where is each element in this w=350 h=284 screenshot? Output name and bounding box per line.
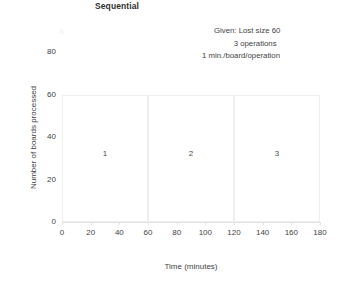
x-axis-tick-mark xyxy=(119,222,120,225)
x-axis-tick-label: 0 xyxy=(47,228,77,237)
stray-mark-icon: Λ xyxy=(59,29,63,35)
x-axis-tick-mark xyxy=(62,222,63,225)
x-axis-tick-mark xyxy=(205,222,206,225)
x-axis-line xyxy=(62,222,321,223)
annotation-line-2: 3 operations xyxy=(214,38,280,51)
x-axis-tick-label: 20 xyxy=(76,228,106,237)
x-axis-tick-mark xyxy=(91,222,92,225)
operation-box xyxy=(148,95,234,223)
y-axis-tick-label: 0 xyxy=(30,217,56,226)
x-axis-title: Time (minutes) xyxy=(62,262,320,271)
x-axis-tick-mark xyxy=(320,222,321,225)
annotation-line-3: 1 min./board/operation xyxy=(202,50,280,63)
operation-box-label: 3 xyxy=(267,149,287,158)
x-axis-tick-mark xyxy=(263,222,264,225)
x-axis-tick-label: 180 xyxy=(305,228,335,237)
x-axis-tick-mark xyxy=(291,222,292,225)
x-axis-tick-label: 80 xyxy=(162,228,192,237)
x-axis-tick-label: 60 xyxy=(133,228,163,237)
x-axis-tick-label: 40 xyxy=(104,228,134,237)
x-axis-tick-mark xyxy=(177,222,178,225)
x-axis-tick-label: 160 xyxy=(276,228,306,237)
operation-box xyxy=(234,95,320,223)
y-axis-tick-label: 60 xyxy=(30,90,56,99)
y-axis-tick-label: 80 xyxy=(30,47,56,56)
x-axis-tick-mark xyxy=(234,222,235,225)
y-axis-tick-label: 20 xyxy=(30,175,56,184)
x-axis-tick-label: 140 xyxy=(248,228,278,237)
y-axis-tick-label: 40 xyxy=(30,132,56,141)
x-axis-tick-mark xyxy=(148,222,149,225)
chart-title: Sequential xyxy=(95,1,139,11)
operation-box xyxy=(62,95,148,223)
operation-box-label: 1 xyxy=(95,149,115,158)
chart-figure: Sequential Given: Lost size 60 3 operati… xyxy=(0,0,350,284)
annotation-line-1: Given: Lost size 60 xyxy=(214,25,280,38)
x-axis-tick-label: 100 xyxy=(190,228,220,237)
operation-box-label: 2 xyxy=(181,149,201,158)
given-annotation: Given: Lost size 60 3 operations 1 min./… xyxy=(214,25,280,63)
x-axis-tick-label: 120 xyxy=(219,228,249,237)
